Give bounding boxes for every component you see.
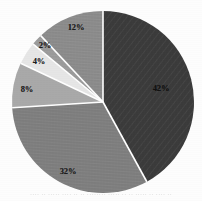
pie-slice-label: 42%	[153, 84, 169, 93]
pie-slice-label: 4%	[33, 57, 45, 66]
pie-slice-label: 2%	[39, 41, 51, 50]
bottom-caption-smudge: ···· ·· ····· ···· ·· ·· ········ ····· …	[0, 192, 202, 201]
pie-slice-label: 32%	[60, 167, 76, 176]
pie-chart-figure: 42%32%8%4%2%12% ···· ·· ····· ···· ·· ··…	[0, 0, 202, 201]
pie-chart-canvas	[0, 0, 202, 201]
pie-slice-label: 12%	[68, 23, 84, 32]
pie-slice-label: 8%	[21, 85, 33, 94]
